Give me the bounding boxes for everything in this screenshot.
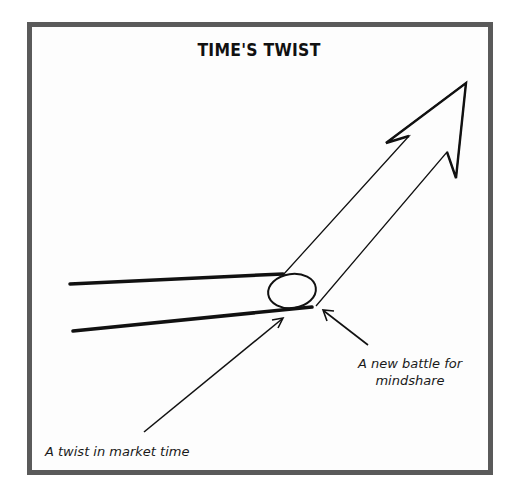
growth-arrow-icon xyxy=(283,83,466,306)
twist-diagram xyxy=(0,0,518,501)
twist-annotation: A twist in market time xyxy=(45,443,189,460)
battle-annotation: A new battle for mindshare xyxy=(340,355,480,389)
battle-annotation-line2: mindshare xyxy=(340,372,480,389)
twist-pointer-arrow-icon xyxy=(144,318,283,432)
upper-trajectory-line xyxy=(70,274,283,284)
battle-pointer-arrow-icon xyxy=(323,310,368,345)
twist-ellipse xyxy=(266,271,318,311)
arrowhead-outline xyxy=(386,83,466,178)
battle-annotation-line1: A new battle for xyxy=(340,355,480,372)
